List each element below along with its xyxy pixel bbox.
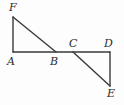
vertex-label-e: E [107, 88, 115, 99]
vertex-label-b: B [50, 56, 58, 67]
geometry-figure: F A B C D E [0, 0, 124, 105]
vertex-label-f: F [9, 2, 17, 13]
figure-canvas [0, 0, 124, 105]
vertex-label-d: D [104, 38, 113, 49]
vertex-label-a: A [7, 56, 15, 67]
vertex-label-c: C [69, 38, 77, 49]
